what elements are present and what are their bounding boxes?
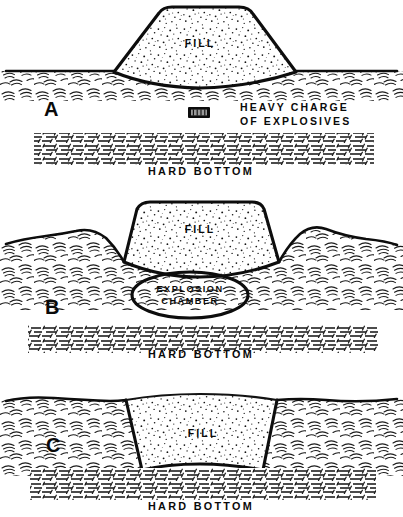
diagram-figure: A HEAVY CHARGE OF EXPLOSIVES HARD BOTTOM — [0, 0, 403, 517]
panel-c-hard-bottom-label: HARD BOTTOM — [148, 500, 254, 512]
panel-c-fill-label: FILL — [188, 427, 219, 439]
panel-c: C HARD BOTTOM — [0, 388, 403, 512]
explosive-charge-icon — [188, 107, 210, 118]
panel-c-letter: C — [46, 434, 61, 456]
panel-b-fill-mound — [118, 196, 286, 282]
panel-a-letter: A — [44, 98, 59, 120]
panel-a-hard-bottom-label: HARD BOTTOM — [148, 165, 254, 177]
panel-a-hard-bottom-layer — [34, 133, 374, 165]
panel-a-charge-label-line1: HEAVY CHARGE — [240, 101, 349, 113]
panel-c-hard-bottom-layer — [30, 468, 376, 500]
explosive-fill-placement-diagram: A HEAVY CHARGE OF EXPLOSIVES HARD BOTTOM — [0, 0, 403, 517]
panel-a-fill-label: FILL — [185, 37, 216, 49]
panel-b-fill-label: FILL — [185, 223, 216, 235]
panel-a-charge-label-line2: OF EXPLOSIVES — [240, 115, 351, 127]
panel-b-hard-bottom-label: HARD BOTTOM — [148, 348, 254, 360]
panel-b-chamber-label-line1: EXPLOSION — [156, 284, 223, 294]
panel-b-chamber-label-line2: CHAMBER — [161, 296, 218, 306]
panel-b-letter: B — [45, 296, 60, 318]
